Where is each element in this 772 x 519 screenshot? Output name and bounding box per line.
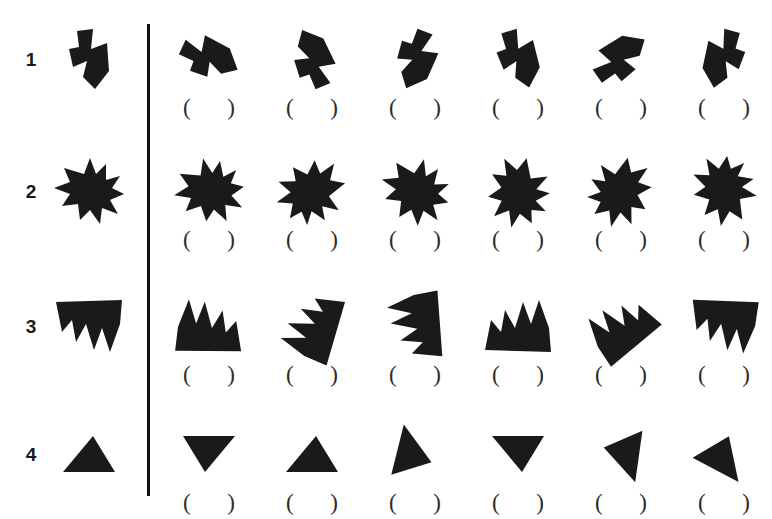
answer-slot-2A[interactable]: (): [163, 230, 255, 256]
shape-polygon: [54, 158, 124, 224]
option-figure-4E: [575, 415, 667, 493]
row-number-label: 2: [18, 182, 44, 201]
option-shape-3A-icon: [168, 287, 250, 365]
right-paren: ): [742, 230, 750, 250]
answer-slot-1A[interactable]: (): [163, 98, 255, 124]
option-4D[interactable]: (): [472, 415, 564, 519]
option-figure-2C: [369, 152, 461, 230]
option-4E[interactable]: (): [575, 415, 667, 519]
option-figure-2A: [163, 152, 255, 230]
shape-polygon: [492, 436, 544, 472]
option-2B[interactable]: (): [266, 152, 358, 256]
option-figure-1D: [472, 20, 564, 98]
shape-polygon: [573, 144, 668, 239]
answer-slot-3B[interactable]: (): [266, 365, 358, 391]
option-3C[interactable]: (): [369, 287, 461, 391]
row-number-label: 3: [18, 317, 44, 336]
option-shape-4F-icon: [683, 415, 765, 493]
option-2E[interactable]: (): [575, 152, 667, 256]
option-1C[interactable]: (): [369, 20, 461, 124]
shape-polygon: [472, 145, 563, 238]
answer-slot-3E[interactable]: (): [575, 365, 667, 391]
option-figure-4D: [472, 415, 564, 493]
answer-slot-4F[interactable]: (): [678, 493, 770, 519]
answer-slot-2E[interactable]: (): [575, 230, 667, 256]
shape-polygon: [685, 151, 762, 231]
option-figure-1A: [163, 20, 255, 98]
option-shape-3F-icon: [683, 287, 765, 365]
option-1D[interactable]: (): [472, 20, 564, 124]
answer-slot-1C[interactable]: (): [369, 98, 461, 124]
answer-slot-1B[interactable]: (): [266, 98, 358, 124]
option-figure-4B: [266, 415, 358, 493]
option-figure-3F: [678, 287, 770, 365]
option-figure-2E: [575, 152, 667, 230]
option-2A[interactable]: (): [163, 152, 255, 256]
option-shape-4E-icon: [580, 415, 662, 493]
option-shape-2C-icon: [374, 152, 456, 230]
answer-slot-4D[interactable]: (): [472, 493, 564, 519]
option-shape-1D-icon: [477, 20, 559, 98]
answer-slot-2C[interactable]: (): [369, 230, 461, 256]
left-paren: (: [286, 493, 294, 513]
left-paren: (: [698, 493, 706, 513]
option-1F[interactable]: (): [678, 20, 770, 124]
option-figure-4A: [163, 415, 255, 493]
answer-slot-3C[interactable]: (): [369, 365, 461, 391]
answer-slot-1E[interactable]: (): [575, 98, 667, 124]
answer-slot-3D[interactable]: (): [472, 365, 564, 391]
reference-figure-row-3: [48, 287, 130, 365]
answer-slot-4B[interactable]: (): [266, 493, 358, 519]
option-figure-1F: [678, 20, 770, 98]
option-shape-1A-icon: [168, 20, 250, 98]
option-figure-3E: [575, 287, 667, 365]
shape-polygon: [579, 285, 663, 367]
shape-polygon: [689, 298, 758, 354]
answer-slot-3F[interactable]: (): [678, 365, 770, 391]
right-paren: ): [536, 98, 544, 118]
left-paren: (: [595, 493, 603, 513]
answer-slot-1D[interactable]: (): [472, 98, 564, 124]
shape-polygon: [183, 436, 235, 472]
reference-figure-row-3-icon: [48, 287, 130, 365]
option-3F[interactable]: (): [678, 287, 770, 391]
left-paren: (: [698, 230, 706, 250]
answer-slot-2B[interactable]: (): [266, 230, 358, 256]
right-paren: ): [639, 365, 647, 385]
left-paren: (: [595, 230, 603, 250]
option-2D[interactable]: (): [472, 152, 564, 256]
option-3D[interactable]: (): [472, 287, 564, 391]
option-4F[interactable]: (): [678, 415, 770, 519]
option-1A[interactable]: (): [163, 20, 255, 124]
option-4A[interactable]: (): [163, 415, 255, 519]
right-paren: ): [433, 230, 441, 250]
option-4C[interactable]: (): [369, 415, 461, 519]
option-1B[interactable]: (): [266, 20, 358, 124]
left-paren: (: [492, 493, 500, 513]
answer-slot-3A[interactable]: (): [163, 365, 255, 391]
option-shape-2A-icon: [168, 152, 250, 230]
option-3E[interactable]: (): [575, 287, 667, 391]
option-3B[interactable]: (): [266, 287, 358, 391]
answer-slot-4A[interactable]: (): [163, 493, 255, 519]
right-paren: ): [639, 98, 647, 118]
answer-slot-2F[interactable]: (): [678, 230, 770, 256]
option-4B[interactable]: (): [266, 415, 358, 519]
shape-polygon: [56, 300, 122, 352]
left-paren: (: [286, 365, 294, 385]
option-2F[interactable]: (): [678, 152, 770, 256]
option-2C[interactable]: (): [369, 152, 461, 256]
option-shape-3C-icon: [374, 287, 456, 365]
answer-slot-1F[interactable]: (): [678, 98, 770, 124]
option-3A[interactable]: (): [163, 287, 255, 391]
answer-slot-2D[interactable]: (): [472, 230, 564, 256]
answer-slot-4E[interactable]: (): [575, 493, 667, 519]
option-1E[interactable]: (): [575, 20, 667, 124]
reference-figure-row-2-icon: [48, 152, 130, 230]
right-paren: ): [330, 230, 338, 250]
option-figure-3C: [369, 287, 461, 365]
right-paren: ): [536, 493, 544, 513]
answer-slot-4C[interactable]: (): [369, 493, 461, 519]
left-paren: (: [492, 230, 500, 250]
right-paren: ): [227, 493, 235, 513]
